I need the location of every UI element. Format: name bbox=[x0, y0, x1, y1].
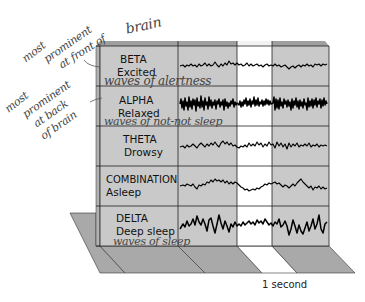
annotation-alpha: waves of not-not sleep bbox=[104, 115, 222, 128]
row-alpha-name: ALPHA bbox=[119, 94, 154, 106]
eeg-diagram: BETA Excited ALPHA Relaxed THETA Drowsy … bbox=[0, 0, 365, 302]
row-combination-name: COMBINATION bbox=[106, 174, 177, 185]
row-theta-name: THETA bbox=[122, 133, 158, 145]
row-delta-name: DELTA bbox=[116, 212, 149, 224]
annotation-delta: waves of sleep bbox=[113, 235, 190, 248]
time-scale-label: 1 second bbox=[262, 279, 307, 290]
left-side-face bbox=[96, 46, 100, 246]
note-front-line-4: brain bbox=[124, 14, 163, 37]
row-combination-state: Asleep bbox=[106, 186, 141, 198]
annotation-beta: waves of alertness bbox=[104, 74, 211, 88]
side-note-back: most prominent at back of brain bbox=[2, 78, 102, 143]
row-theta-state: Drowsy bbox=[124, 146, 163, 158]
top-edge bbox=[96, 41, 329, 46]
row-beta-name: BETA bbox=[120, 53, 147, 65]
